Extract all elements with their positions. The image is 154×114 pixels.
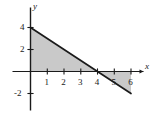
- x-tick-label-2: 2: [61, 78, 66, 87]
- x-tick-label-5: 5: [112, 78, 117, 87]
- y-tick-label-minus-2: -2: [14, 89, 22, 98]
- y-axis-label: y: [33, 2, 37, 11]
- x-axis-arrow-icon: [140, 70, 144, 74]
- x-axis-label: x: [145, 62, 149, 71]
- x-tick-label-3: 3: [78, 78, 83, 87]
- y-tick-label-2: 2: [20, 45, 25, 54]
- chart-figure: y x 4 2 -2 1 2 3 4 5 6: [0, 0, 154, 114]
- x-tick-label-1: 1: [45, 78, 50, 87]
- x-tick-label-6: 6: [128, 78, 133, 87]
- y-tick-label-4: 4: [20, 23, 25, 32]
- plot-area: [0, 0, 154, 114]
- x-tick-label-4: 4: [95, 78, 100, 87]
